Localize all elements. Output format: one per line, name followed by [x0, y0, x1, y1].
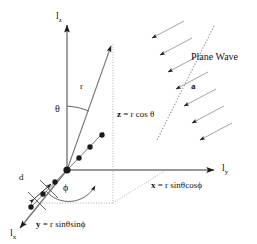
y-equation-expression: = r sinθsinϕ [41, 219, 86, 229]
theta-label: θ [55, 104, 60, 114]
diagram-canvas [0, 0, 257, 244]
array-element [87, 144, 92, 149]
array-element [40, 191, 45, 196]
r-vector [67, 46, 111, 170]
spacing-label: d [19, 173, 24, 182]
plane-wave-arrow [200, 123, 232, 140]
array-element [52, 179, 57, 184]
array-element-origin [63, 166, 70, 173]
array-line-upper [67, 132, 104, 170]
x-equation-label: x = r sinθcosϕ [151, 181, 202, 190]
phi-label: ϕ [63, 183, 68, 193]
axis-group [20, 25, 214, 228]
spherical-coordinate-diagram: lz ly lx r θ ϕ d a Plane Wave z = r cos … [0, 0, 257, 244]
x-axis-label: lx [10, 228, 16, 241]
z-axis-subscript: z [59, 16, 62, 24]
projection-lines [31, 44, 166, 203]
z-equation-expression: = r cos θ [121, 109, 154, 119]
x-equation-expression: = r sinθcosϕ [156, 180, 202, 190]
plane-wave-arrow [152, 21, 184, 38]
a-vector-label: a [191, 82, 196, 91]
array-element [99, 132, 104, 137]
array-line-lower [29, 170, 67, 209]
plane-wave-front [157, 26, 214, 140]
array-element [28, 204, 33, 209]
y-equation-label: y = r sinθsinϕ [36, 220, 85, 229]
z-axis-label: lz [56, 11, 62, 24]
y-axis-subscript: y [225, 168, 229, 176]
spacing-arrow [34, 184, 51, 199]
theta-arc [67, 106, 89, 111]
x-axis-subscript: x [13, 233, 17, 241]
plane-wave-arrow [192, 106, 224, 123]
plane-wave-label: Plane Wave [191, 52, 238, 62]
plane-wave-arrow [184, 89, 216, 106]
r-vector-label: r [80, 82, 83, 91]
y-axis-label: ly [222, 163, 228, 176]
array-element [76, 155, 81, 160]
plane-wave-arrow [160, 38, 192, 55]
r-vector-group [67, 46, 111, 170]
z-equation-label: z = r cos θ [117, 110, 154, 119]
